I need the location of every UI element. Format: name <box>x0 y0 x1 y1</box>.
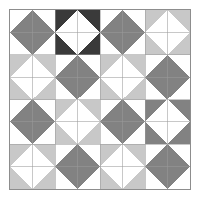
quilt-frame <box>9 9 191 190</box>
quilt-canvas <box>0 0 203 201</box>
quilt-diagram <box>10 10 190 189</box>
